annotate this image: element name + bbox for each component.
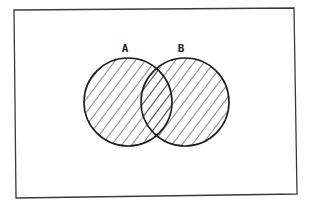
set-a-label: A — [122, 42, 129, 55]
venn-diagram: A B — [0, 0, 311, 206]
set-b-label: B — [178, 42, 185, 55]
